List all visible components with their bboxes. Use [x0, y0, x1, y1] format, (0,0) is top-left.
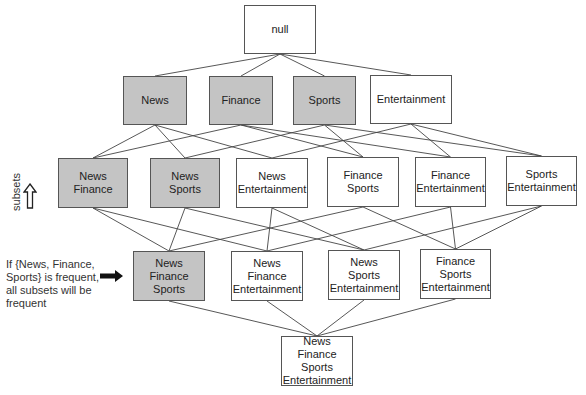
itemset-label-line: Entertainment [283, 374, 351, 387]
edge-fs-nfs [169, 207, 363, 251]
itemset-label-line: News [350, 256, 378, 269]
itemset-node-ns: NewsSports [150, 158, 220, 208]
edge-fs-fse [363, 207, 456, 249]
itemset-label-line: Entertainment [421, 281, 489, 294]
edge-se-nse [364, 206, 542, 250]
frequent-itemset-note: If {News, Finance, Sports} is frequent, … [6, 258, 101, 310]
itemset-label-line: Sports [169, 183, 201, 196]
itemset-label-line: Sports [309, 94, 341, 107]
itemset-node-fe: FinanceEntertainment [415, 157, 486, 207]
itemset-label-line: Finance [221, 94, 260, 107]
edge-n-ns [155, 125, 185, 158]
note-line: all subsets will be [6, 284, 101, 297]
itemset-node-nse: NewsSportsEntertainment [328, 250, 400, 300]
itemset-node-nfse: NewsFinanceSportsEntertainment [281, 336, 353, 386]
itemset-label-line: Sports [440, 268, 472, 281]
itemset-node-ne: NewsEntertainment [236, 158, 308, 208]
edge-nse-nfse [317, 300, 364, 336]
itemset-node-se: SportsEntertainment [506, 156, 577, 206]
itemset-label-line: Finance [297, 348, 336, 361]
itemset-node-null: null [244, 5, 316, 54]
note-line: If {News, Finance, [6, 258, 101, 271]
edge-ns-nse [185, 208, 364, 250]
edge-f-nf [93, 125, 241, 158]
itemset-label-line: News [171, 170, 199, 183]
edge-ne-nse [272, 208, 364, 250]
itemset-node-n: News [123, 76, 187, 125]
itemset-node-fs: FinanceSports [327, 157, 399, 207]
itemset-label-line: News [141, 94, 169, 107]
edge-fse-nfse [317, 299, 456, 336]
edge-ne-nfe [267, 208, 272, 251]
edge-nf-nfe [93, 208, 267, 251]
itemset-label-line: Sports [153, 283, 185, 296]
itemset-label-line: Finance [343, 169, 382, 182]
itemset-label-line: News [79, 170, 107, 183]
itemset-label-line: Entertainment [233, 283, 301, 296]
itemset-node-s: Sports [293, 76, 356, 125]
right-arrow-icon [100, 270, 124, 282]
itemset-label-line: Finance [431, 169, 470, 182]
edge-null-e [280, 54, 411, 75]
edge-nfs-nfse [169, 301, 317, 336]
itemset-label-line: Sports [348, 269, 380, 282]
up-arrow-icon [23, 183, 37, 209]
edge-n-nf [93, 125, 155, 158]
note-line: Sports} is frequent, [6, 271, 101, 284]
itemset-node-nfs: NewsFinanceSports [133, 251, 205, 301]
subsets-label: subsets [10, 172, 22, 212]
itemset-label-line: Finance [436, 255, 475, 268]
itemset-label-line: Finance [247, 270, 286, 283]
itemset-label-line: Sports [347, 182, 379, 195]
itemset-label-line: Sports [526, 168, 558, 181]
edge-e-ne [272, 124, 411, 158]
itemset-node-nf: NewsFinance [58, 158, 128, 208]
edge-nf-nfs [93, 208, 169, 251]
itemset-label-line: News [258, 170, 286, 183]
itemset-label-line: News [155, 257, 183, 270]
itemset-label-line: Entertainment [238, 183, 306, 196]
itemset-label-line: Finance [73, 183, 112, 196]
edge-fe-nfe [267, 207, 451, 251]
itemset-node-fse: FinanceSportsEntertainment [420, 249, 491, 299]
itemset-label-line: Finance [149, 270, 188, 283]
itemset-node-nfe: NewsFinanceEntertainment [231, 251, 303, 301]
itemset-label-line: Entertainment [330, 282, 398, 295]
itemset-label-line: Sports [301, 361, 333, 374]
itemset-label-line: Entertainment [507, 181, 575, 194]
itemset-label-line: Entertainment [416, 182, 484, 195]
itemset-label-line: null [271, 23, 288, 36]
itemset-node-e: Entertainment [370, 75, 452, 124]
itemset-label-line: News [253, 257, 281, 270]
itemset-node-f: Finance [209, 76, 273, 125]
itemset-label-line: Entertainment [377, 93, 445, 106]
note-line: frequent [6, 297, 101, 310]
edge-ns-nfs [169, 208, 185, 251]
edge-se-fse [456, 206, 542, 249]
itemset-label-line: News [303, 335, 331, 348]
edge-nfe-nfse [267, 301, 317, 336]
